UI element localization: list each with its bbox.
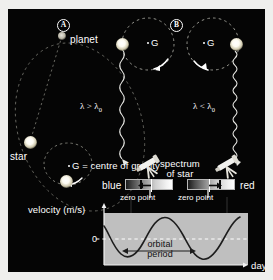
days-axis-label: days (251, 261, 265, 271)
graph-zero-tick-label: 0 (92, 234, 97, 244)
velocity-graph-vectors (8, 9, 265, 272)
graph-y-axis-arrowhead (102, 203, 107, 208)
figure-plate: A B (8, 9, 265, 272)
doppler-wobble-figure: A B (0, 0, 273, 280)
graph-x-axis-arrowhead (243, 263, 248, 268)
orbital-period-arrowhead-left (122, 248, 128, 254)
orbital-period-label: orbital period (136, 239, 184, 259)
orbital-period-line1: orbital (147, 239, 172, 249)
orbital-period-line2: period (147, 249, 173, 259)
